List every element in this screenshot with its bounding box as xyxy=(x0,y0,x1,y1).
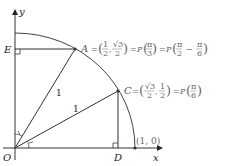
svg-text:=: = xyxy=(132,87,139,96)
svg-text:2: 2 xyxy=(177,49,182,58)
svg-text:=: = xyxy=(130,45,137,54)
svg-text:P: P xyxy=(136,45,143,54)
svg-text:): ) xyxy=(203,41,208,56)
svg-text:,: , xyxy=(109,45,112,54)
svg-text:): ) xyxy=(123,41,128,56)
y-axis-label: y xyxy=(18,6,25,17)
x-axis-label: x xyxy=(153,152,159,163)
angle-arc-x xyxy=(28,142,30,149)
point-D-label: D xyxy=(113,152,122,163)
svg-text:(: ( xyxy=(139,83,144,98)
right-angle-D xyxy=(113,143,118,148)
svg-text:A: A xyxy=(80,43,88,54)
svg-text:1: 1 xyxy=(160,82,165,91)
point-C xyxy=(116,89,119,92)
equation-C: C = ( √3 2 , 1 2 ) = P ( π 6 ) xyxy=(124,82,202,100)
svg-text:): ) xyxy=(166,83,171,98)
svg-text:6: 6 xyxy=(191,91,196,100)
segment-OA xyxy=(15,49,75,148)
angle-arc-y xyxy=(15,134,22,136)
svg-text:2: 2 xyxy=(160,91,165,100)
svg-text:=: = xyxy=(159,45,166,54)
svg-text:π: π xyxy=(197,40,202,49)
unit-point-label: (1, 0) xyxy=(136,136,160,146)
svg-text:P: P xyxy=(179,87,186,96)
svg-text:π: π xyxy=(177,40,182,49)
svg-text:P: P xyxy=(165,45,172,54)
svg-text:): ) xyxy=(197,83,202,98)
svg-text:−: − xyxy=(186,45,193,54)
segment-OC xyxy=(15,91,118,148)
svg-text:2: 2 xyxy=(147,91,152,100)
svg-text:2: 2 xyxy=(115,49,120,58)
segment-OA-label: 1 xyxy=(56,88,62,98)
svg-text:): ) xyxy=(152,41,157,56)
angle-tick-x xyxy=(29,142,33,143)
svg-text:√3: √3 xyxy=(145,82,155,91)
svg-text:=: = xyxy=(91,45,98,54)
segment-OC-label: 1 xyxy=(73,104,79,114)
unit-circle-diagram: y x O E D (1, 0) 1 1 A = ( 1 2 , √3 2 ) … xyxy=(0,0,229,166)
svg-text:C: C xyxy=(124,85,132,96)
svg-text:,: , xyxy=(155,87,158,96)
point-E-label: E xyxy=(3,44,12,55)
equation-A: A = ( 1 2 , √3 2 ) = P ( π 3 ) = P ( π 2… xyxy=(80,40,208,58)
svg-text:6: 6 xyxy=(197,49,202,58)
svg-text:√3: √3 xyxy=(113,40,123,49)
svg-text:1: 1 xyxy=(103,40,108,49)
origin-label: O xyxy=(3,152,11,163)
svg-text:π: π xyxy=(191,82,196,91)
point-unit xyxy=(133,146,136,149)
right-angle-E xyxy=(15,49,20,54)
point-A xyxy=(73,47,76,50)
svg-text:2: 2 xyxy=(103,49,108,58)
svg-text:=: = xyxy=(173,87,180,96)
